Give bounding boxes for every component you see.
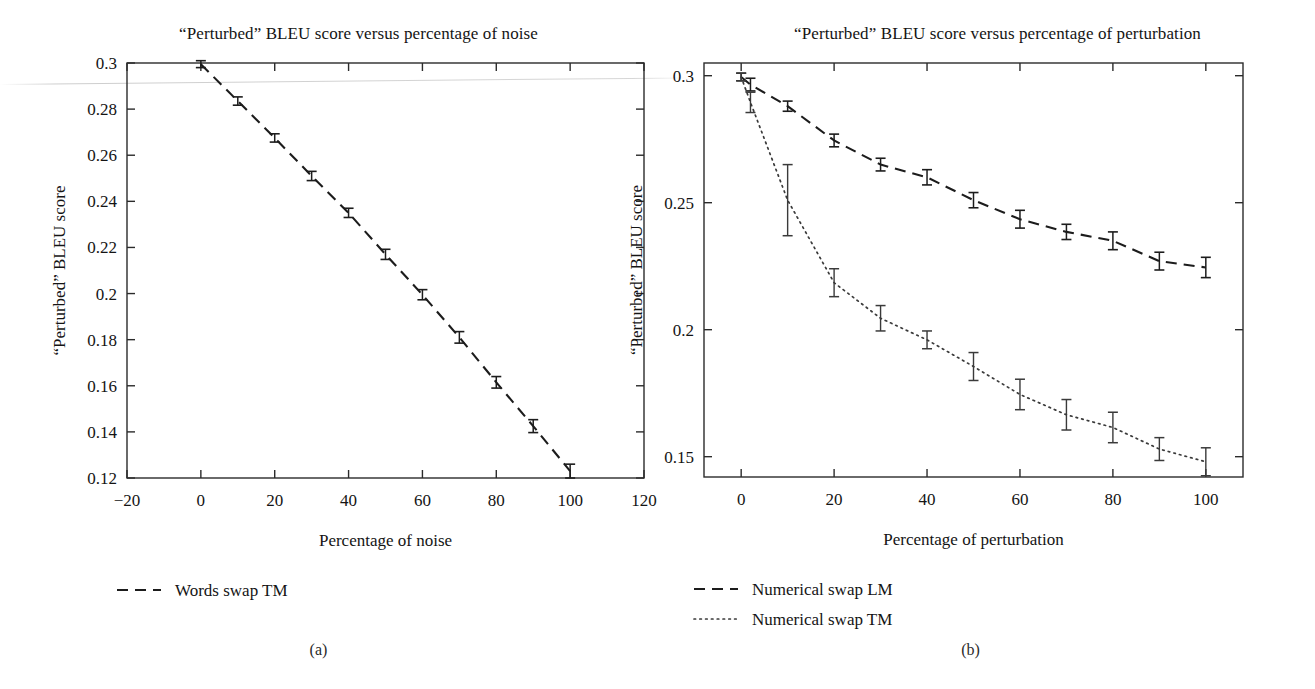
- y-tick-label: 0.3: [96, 54, 117, 73]
- x-tick-label: 40: [340, 491, 357, 510]
- panel-b: “Perturbed” BLEU score versus percentage…: [657, 0, 1314, 689]
- legend-label: Words swap TM: [175, 581, 288, 600]
- series-numerical-swap-tm: [736, 73, 1211, 476]
- panel-a: “Perturbed” BLEU score versus percentage…: [0, 0, 657, 689]
- x-tick-label: 100: [1193, 490, 1219, 509]
- chart-b-svg: 0204060801000.150.20.250.3Percentage of …: [657, 0, 1315, 640]
- y-tick-label: 0.15: [664, 448, 694, 467]
- x-tick-label: 60: [414, 491, 431, 510]
- x-tick-label: 0: [197, 491, 206, 510]
- y-axis-title: “Perturbed” BLEU score: [627, 185, 646, 355]
- series-words-swap-tm: [196, 61, 575, 478]
- y-tick-label: 0.18: [87, 331, 117, 350]
- x-tick-label: 0: [737, 490, 746, 509]
- y-tick-label: 0.3: [673, 67, 694, 86]
- x-tick-label: −20: [114, 491, 141, 510]
- x-axis-title: Percentage of noise: [319, 531, 452, 550]
- y-axis-title: “Perturbed” BLEU score: [50, 186, 69, 356]
- panel-a-plot: −200204060801001200.120.140.160.180.20.2…: [0, 0, 657, 689]
- y-tick-label: 0.22: [87, 238, 117, 257]
- series-line: [741, 77, 1206, 462]
- x-tick-label: 100: [557, 491, 583, 510]
- series-line: [741, 77, 1206, 267]
- figure-container: “Perturbed” BLEU score versus percentage…: [0, 0, 1315, 689]
- x-tick-label: 120: [631, 491, 657, 510]
- y-tick-label: 0.24: [87, 192, 117, 211]
- panel-b-plot: 0204060801000.150.20.250.3Percentage of …: [657, 0, 1314, 689]
- y-tick-label: 0.2: [96, 285, 117, 304]
- legend-label: Numerical swap LM: [752, 580, 893, 599]
- chart-a-svg: −200204060801001200.120.140.160.180.20.2…: [0, 0, 657, 640]
- y-tick-label: 0.28: [87, 100, 117, 119]
- x-tick-label: 20: [826, 490, 843, 509]
- legend-label: Numerical swap TM: [752, 610, 892, 629]
- panel-b-caption: (b): [642, 641, 1299, 659]
- x-tick-label: 40: [919, 490, 936, 509]
- y-tick-label: 0.12: [87, 469, 117, 488]
- y-tick-label: 0.14: [87, 423, 117, 442]
- y-tick-label: 0.26: [87, 146, 117, 165]
- x-axis-title: Percentage of perturbation: [883, 530, 1064, 549]
- y-tick-label: 0.16: [87, 377, 117, 396]
- series-numerical-swap-lm: [736, 73, 1211, 277]
- x-tick-label: 80: [1104, 490, 1121, 509]
- x-tick-label: 60: [1011, 490, 1028, 509]
- x-tick-label: 20: [266, 491, 283, 510]
- x-tick-label: 80: [488, 491, 505, 510]
- y-tick-label: 0.25: [664, 194, 694, 213]
- y-tick-label: 0.2: [673, 321, 694, 340]
- panel-a-caption: (a): [0, 641, 647, 659]
- plot-frame: [127, 63, 644, 478]
- series-line: [201, 64, 570, 471]
